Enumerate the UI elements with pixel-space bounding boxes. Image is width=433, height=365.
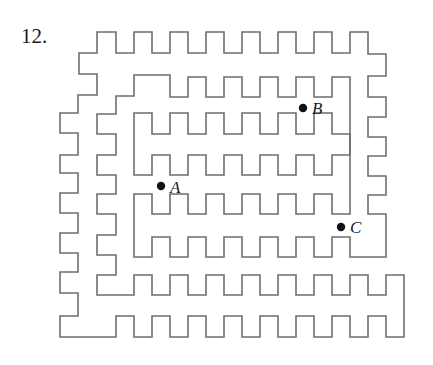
maze-wall-0 <box>60 32 404 337</box>
maze-diagram: ABC <box>0 0 433 365</box>
point-a-label: A <box>169 178 181 197</box>
point-c-dot <box>337 223 345 231</box>
point-a-dot <box>157 182 165 190</box>
point-c-label: C <box>350 218 362 237</box>
point-b-dot <box>299 104 307 112</box>
maze-walls <box>60 32 404 337</box>
maze-wall-1 <box>134 113 350 175</box>
point-b-label: B <box>312 99 323 118</box>
